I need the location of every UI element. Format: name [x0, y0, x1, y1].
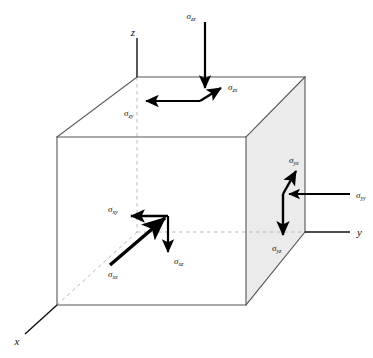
label-sigma-yy: σyy	[356, 190, 366, 201]
axis-label-y: y	[356, 226, 362, 238]
axis-label-x: x	[14, 335, 20, 347]
stress-tensor-figure: z y x σzz σzx σzy	[0, 0, 373, 358]
axis-label-z: z	[130, 26, 136, 38]
label-sigma-zz: σzz	[186, 11, 196, 22]
stress-cube-svg: z y x σzz σzx σzy	[0, 0, 373, 358]
axis-x-line	[25, 305, 57, 334]
